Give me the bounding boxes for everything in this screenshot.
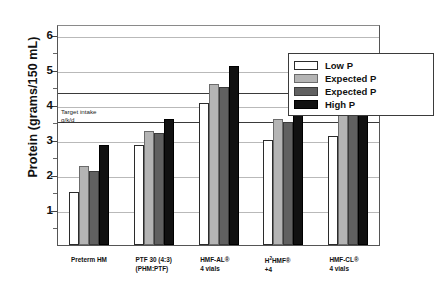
y-axis-label: 3 <box>27 134 53 146</box>
bar[interactable] <box>99 145 109 245</box>
x-axis-label-line-1: H2HMF® <box>265 256 291 266</box>
bar-group <box>134 24 174 245</box>
bar-group <box>69 24 109 245</box>
bar[interactable] <box>219 87 229 245</box>
legend-swatch <box>294 87 318 96</box>
bar[interactable] <box>293 101 303 245</box>
y-axis-label: 5 <box>27 64 53 76</box>
bar[interactable] <box>69 192 79 245</box>
bar[interactable] <box>283 122 293 245</box>
legend-swatch <box>294 74 318 83</box>
x-axis-label-line-1: HMF-CL® <box>329 256 358 265</box>
bar-group <box>199 24 239 245</box>
legend-label: Expected P <box>325 73 376 84</box>
x-axis-label: HMF-AL®4 vials <box>200 256 229 273</box>
legend-swatch <box>294 100 318 109</box>
bar[interactable] <box>328 136 338 245</box>
bar[interactable] <box>273 119 283 245</box>
bar[interactable] <box>229 66 239 245</box>
bar[interactable] <box>338 110 348 245</box>
bar[interactable] <box>263 140 273 245</box>
bar[interactable] <box>144 131 154 245</box>
x-axis-label-line-2: 4 vials <box>200 265 229 274</box>
bar[interactable] <box>154 133 164 245</box>
legend-label: Expected P <box>325 86 376 97</box>
y-axis-label: 4 <box>27 99 53 111</box>
x-axis-label-line-2: 4 vials <box>329 265 358 274</box>
legend-item[interactable]: High P <box>294 98 428 110</box>
legend-swatch <box>294 61 318 70</box>
bar[interactable] <box>164 119 174 245</box>
plot-area: Target intake g/k/d Low PExpected PExpec… <box>57 25 380 246</box>
bar[interactable] <box>209 84 219 245</box>
x-axis-label: PTF 30 (4:3)(PHM:PTF) <box>136 256 172 273</box>
x-axis-label: H2HMF®+4 <box>265 256 291 274</box>
legend-item[interactable]: Expected P <box>294 72 428 84</box>
legend-label: Low P <box>325 60 353 71</box>
y-axis-label: 2 <box>27 169 53 181</box>
x-axis-label-line-2: (PHM:PTF) <box>136 265 172 274</box>
x-axis-label-line-2: +4 <box>265 266 291 275</box>
y-axis-label: 6 <box>27 29 53 41</box>
bar[interactable] <box>348 115 358 245</box>
bar[interactable] <box>89 171 99 245</box>
bar[interactable] <box>134 145 144 245</box>
y-axis-label: 1 <box>27 204 53 216</box>
chart-legend: Low PExpected PExpected PHigh P <box>288 53 434 116</box>
x-axis-label-line-1: PTF 30 (4:3) <box>136 256 172 265</box>
legend-label: High P <box>325 99 355 110</box>
legend-item[interactable]: Low P <box>294 59 428 71</box>
x-axis-label-line-1: HMF-AL® <box>200 256 229 265</box>
bar[interactable] <box>199 103 209 245</box>
x-axis-label-line-1: Preterm HM <box>71 256 107 265</box>
x-axis-label: HMF-CL®4 vials <box>329 256 358 273</box>
bar[interactable] <box>79 166 89 245</box>
legend-item[interactable]: Expected P <box>294 85 428 97</box>
x-axis-label: Preterm HM <box>71 256 107 265</box>
